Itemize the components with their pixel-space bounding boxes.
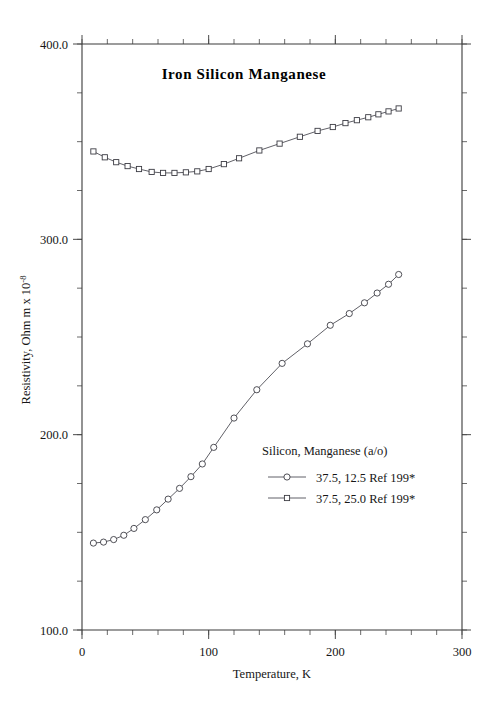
x-axis-title: Temperature, K <box>233 667 311 681</box>
data-point-square <box>257 148 262 153</box>
data-point-square <box>125 163 130 168</box>
data-point-square <box>183 170 188 175</box>
y-tick-label: 300.0 <box>40 233 68 247</box>
data-point-circle <box>176 485 182 491</box>
data-point-circle <box>346 310 352 316</box>
y-axis-title: Resistivity, Ohm m x 10-8 <box>18 276 33 405</box>
data-point-circle <box>279 360 285 366</box>
data-point-square <box>386 109 391 114</box>
data-point-square <box>277 141 282 146</box>
data-point-circle <box>385 281 391 287</box>
legend-entry-label: 37.5, 25.0 Ref 199* <box>316 492 415 506</box>
data-point-square <box>160 170 165 175</box>
data-point-square <box>343 121 348 126</box>
chart-canvas: 100.0200.0300.0400.0 0100200300 Iron Sil… <box>0 0 489 708</box>
data-point-circle <box>90 540 96 546</box>
data-point-circle <box>231 415 237 421</box>
legend-marker-square <box>284 495 289 500</box>
data-point-circle <box>361 300 367 306</box>
data-point-circle <box>199 461 205 467</box>
data-point-circle <box>121 532 127 538</box>
x-tick-label: 100 <box>199 645 218 659</box>
data-point-square <box>376 112 381 117</box>
data-point-square <box>315 128 320 133</box>
y-tick-label: 100.0 <box>40 624 68 638</box>
data-point-square <box>366 115 371 120</box>
y-axis-title-group: Resistivity, Ohm m x 10-8 <box>18 276 33 405</box>
data-point-circle <box>131 525 137 531</box>
legend-entry-label: 37.5, 12.5 Ref 199* <box>316 471 415 485</box>
data-point-circle <box>254 387 260 393</box>
data-point-square <box>102 155 107 160</box>
legend-title: Silicon, Manganese (a/o) <box>262 444 387 458</box>
resistivity-chart-figure: 100.0200.0300.0400.0 0100200300 Iron Sil… <box>0 0 489 708</box>
data-point-square <box>136 166 141 171</box>
data-point-square <box>297 134 302 139</box>
x-tick-label: 300 <box>453 645 472 659</box>
legend-marker-circle <box>284 474 290 480</box>
data-point-square <box>149 169 154 174</box>
data-point-circle <box>396 271 402 277</box>
data-point-circle <box>327 322 333 328</box>
data-point-square <box>91 149 96 154</box>
x-tick-label: 200 <box>326 645 345 659</box>
data-point-square <box>114 160 119 165</box>
x-tick-label: 0 <box>79 645 85 659</box>
chart-title: Iron Silicon Manganese <box>162 66 327 82</box>
data-point-square <box>172 170 177 175</box>
data-point-circle <box>374 290 380 296</box>
data-point-circle <box>142 517 148 523</box>
data-point-circle <box>304 341 310 347</box>
data-point-square <box>236 156 241 161</box>
figure-background <box>0 0 489 708</box>
data-point-circle <box>165 496 171 502</box>
data-point-square <box>354 118 359 123</box>
data-point-square <box>221 162 226 167</box>
data-point-square <box>396 106 401 111</box>
data-point-circle <box>154 507 160 513</box>
data-point-circle <box>100 539 106 545</box>
data-point-circle <box>111 536 117 542</box>
data-point-circle <box>211 444 217 450</box>
y-tick-label: 400.0 <box>40 38 68 52</box>
data-point-circle <box>188 474 194 480</box>
data-point-square <box>206 166 211 171</box>
data-point-square <box>330 124 335 129</box>
y-tick-label: 200.0 <box>40 428 68 442</box>
data-point-square <box>195 169 200 174</box>
